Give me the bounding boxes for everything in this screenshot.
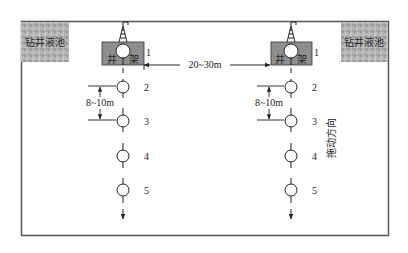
well-left-number-4: 4 xyxy=(144,151,149,162)
well-left-2 xyxy=(117,81,129,93)
well-right-number-2: 2 xyxy=(312,82,317,93)
well-left-5 xyxy=(117,184,129,196)
well-left-4 xyxy=(117,150,129,162)
well-left-number-2: 2 xyxy=(144,82,149,93)
well-right-4 xyxy=(285,150,297,162)
row-spacing-dimension: 20~30m xyxy=(144,59,270,70)
mud-pit-right-label: 钻井液池 xyxy=(344,36,384,48)
rig-right-label-2: 架 xyxy=(297,54,307,65)
spacing-label-right: 8~10m xyxy=(255,97,283,108)
well-left-number-5: 5 xyxy=(144,185,149,196)
spacing-label-left: 8~10m xyxy=(86,97,114,108)
well-column-right: 井 架 1 2 3 4 5 8~10m xyxy=(255,22,319,219)
move-direction-label: 拖动方向 xyxy=(325,118,337,158)
rig-left-label-1: 井 xyxy=(107,53,117,65)
well-right-5 xyxy=(285,184,297,196)
well-left-number-3: 3 xyxy=(144,116,149,127)
well-right-number-4: 4 xyxy=(312,151,317,162)
mud-pit-left: 钻井液池 xyxy=(21,22,69,62)
rig-left-label-2: 架 xyxy=(129,54,139,65)
well-right-2 xyxy=(285,81,297,93)
well-right-number-3: 3 xyxy=(312,116,317,127)
well-left-3 xyxy=(117,115,129,127)
mud-pit-right: 钻井液池 xyxy=(341,22,388,62)
well-pad-layout-diagram: 钻井液池 钻井液池 井 架 1 2 3 xyxy=(0,0,408,253)
derrick-icon xyxy=(119,22,128,42)
well-right-number-1: 1 xyxy=(314,47,319,58)
rig-right-label-1: 井 xyxy=(275,53,285,65)
well-left-number-1: 1 xyxy=(146,47,151,58)
well-right-number-5: 5 xyxy=(312,185,317,196)
well-column-left: 井 架 1 2 3 4 5 8~10m xyxy=(86,22,151,219)
row-spacing-label: 20~30m xyxy=(188,59,221,70)
derrick-icon xyxy=(287,22,296,42)
mud-pit-left-label: 钻井液池 xyxy=(25,36,65,48)
well-right-3 xyxy=(285,115,297,127)
